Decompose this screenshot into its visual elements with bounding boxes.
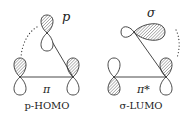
orbital-label-sigma: σ	[147, 6, 156, 20]
p-orbital-bottom-left	[108, 58, 120, 95]
p-orbital-bottom-right	[67, 58, 79, 95]
bond-label-pi: π	[42, 83, 51, 96]
interaction-dotted-arc	[176, 30, 179, 58]
p-orbital-bottom-right	[160, 58, 172, 95]
sigma-orbital	[121, 24, 165, 41]
interaction-dotted-arc	[21, 27, 37, 57]
orbital-diagram: p π p-HOMO σ π* σ-LUMO	[0, 0, 189, 124]
p-orbital-bottom-left	[14, 58, 26, 95]
p-homo-diagram: p π p-HOMO	[14, 9, 79, 111]
caption-p-homo: p-HOMO	[24, 100, 69, 111]
p-orbital-top	[41, 15, 53, 51]
orbital-label-p: p	[62, 9, 71, 24]
bond-label-pi-star: π*	[136, 83, 150, 96]
caption-sigma-lumo: σ-LUMO	[119, 100, 162, 111]
sigma-lumo-diagram: σ π* σ-LUMO	[108, 6, 179, 111]
